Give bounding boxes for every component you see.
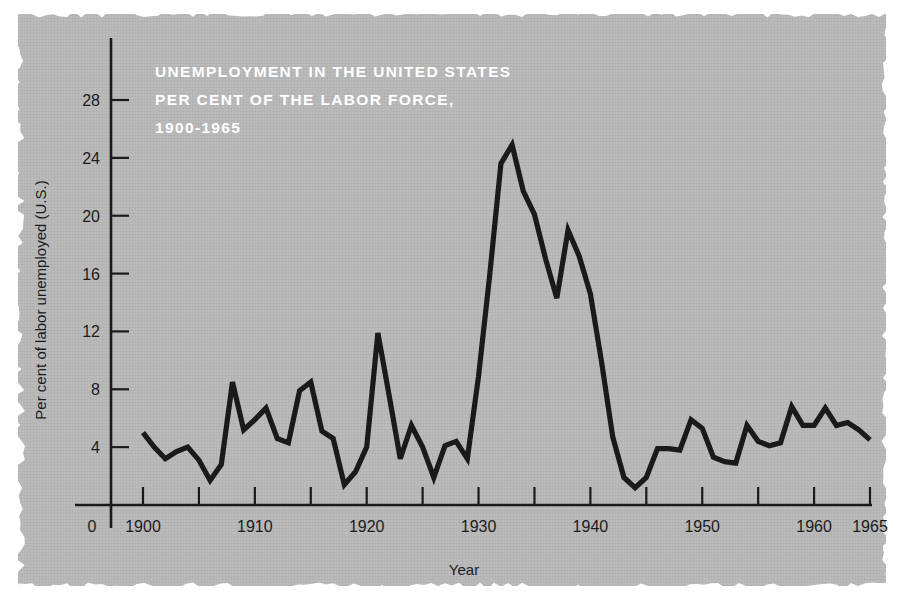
y-tick-label-8: 8 <box>91 381 100 398</box>
x-tick-label-1930: 1930 <box>461 518 497 535</box>
x-tick-label-1900: 1900 <box>125 518 161 535</box>
chart-title: UNEMPLOYMENT IN THE UNITED STATES PER CE… <box>155 63 512 136</box>
unemployment-data-line <box>143 145 870 488</box>
y-axis-tick-labels: 481216202428 <box>82 92 100 456</box>
x-tick-label-1920: 1920 <box>349 518 385 535</box>
y-axis-ticks <box>111 100 129 447</box>
title-line-2: PER CENT OF THE LABOR FORCE, <box>155 91 455 108</box>
y-axis-title: Per cent of labor unemployed (U.S.) <box>32 180 49 419</box>
x-tick-label-1910: 1910 <box>237 518 273 535</box>
title-line-1: UNEMPLOYMENT IN THE UNITED STATES <box>155 63 512 80</box>
x-tick-label-1940: 1940 <box>573 518 609 535</box>
x-tick-label-1960: 1960 <box>796 518 832 535</box>
x-axis-zero-label: 0 <box>88 518 97 535</box>
y-tick-label-16: 16 <box>82 266 100 283</box>
x-tick-label-1950: 1950 <box>684 518 720 535</box>
x-axis-title: Year <box>449 561 479 578</box>
x-axis-ticks <box>143 487 870 505</box>
x-axis-tick-labels: 19001910192019301940195019601965 <box>125 518 888 535</box>
y-tick-label-4: 4 <box>91 439 100 456</box>
y-tick-label-24: 24 <box>82 150 100 167</box>
figure-page: UNEMPLOYMENT IN THE UNITED STATES PER CE… <box>0 0 912 603</box>
y-tick-label-28: 28 <box>82 92 100 109</box>
y-tick-label-20: 20 <box>82 208 100 225</box>
title-line-3: 1900-1965 <box>155 119 241 136</box>
y-tick-label-12: 12 <box>82 323 100 340</box>
unemployment-line-chart: UNEMPLOYMENT IN THE UNITED STATES PER CE… <box>0 0 912 603</box>
x-tick-label-1965: 1965 <box>852 518 888 535</box>
